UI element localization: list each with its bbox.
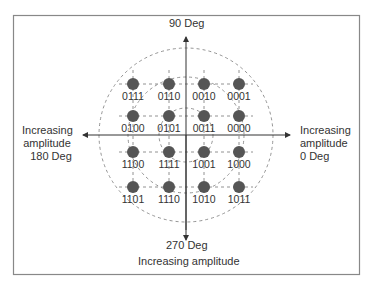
point-label: 1001 (192, 158, 215, 170)
point-label: 1101 (122, 193, 145, 205)
constellation-point (233, 110, 245, 122)
point-label: 1011 (228, 193, 251, 205)
label-270-deg: 270 Deg (166, 239, 208, 252)
label-0-line2: amplitude (300, 137, 351, 150)
label-0-line1: Increasing (300, 124, 351, 137)
constellation-point (163, 110, 175, 122)
point-label: 1100 (122, 158, 145, 170)
constellation-point (127, 181, 139, 193)
point-label: 0111 (122, 90, 144, 102)
point-label: 0010 (192, 90, 215, 102)
constellation-point (127, 78, 139, 90)
point-label: 0000 (227, 122, 250, 134)
constellation-point (127, 146, 139, 158)
constellation-point (233, 146, 245, 158)
label-180-deg: Increasing amplitude 180 Deg (22, 124, 72, 163)
label-increasing-amplitude-bottom: Increasing amplitude (138, 255, 240, 268)
constellation-point (163, 181, 175, 193)
point-label: 0110 (158, 90, 181, 102)
constellation-point (127, 110, 139, 122)
constellation-point (198, 110, 210, 122)
label-0-line3: 0 Deg (300, 150, 351, 163)
point-label: 0100 (121, 122, 144, 134)
point-label: 1111 (158, 158, 179, 170)
point-label: 0001 (227, 90, 250, 102)
label-180-line1: Increasing (22, 124, 72, 137)
label-0-deg: Increasing amplitude 0 Deg (300, 124, 351, 163)
point-label: 0011 (193, 122, 216, 134)
point-label: 1110 (158, 193, 180, 205)
point-label: 0101 (157, 122, 180, 134)
constellation-point (198, 146, 210, 158)
label-90-deg: 90 Deg (169, 17, 204, 30)
constellation-point (163, 78, 175, 90)
constellation-point (233, 181, 245, 193)
point-label: 1000 (227, 158, 250, 170)
label-180-line2: amplitude (22, 137, 72, 150)
point-label: 1010 (192, 193, 215, 205)
label-180-line3: 180 Deg (22, 150, 72, 163)
constellation-point (233, 78, 245, 90)
constellation-point (163, 146, 175, 158)
constellation-point (198, 78, 210, 90)
constellation-point (198, 181, 210, 193)
